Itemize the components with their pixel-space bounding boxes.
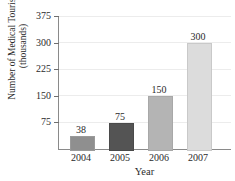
x-axis-title: Year <box>58 166 231 178</box>
chart-title: Growth in Medical Care <box>70 0 190 2</box>
bar-2007 <box>187 43 212 151</box>
x-tick-label-2006: 2006 <box>139 152 179 163</box>
chart-figure: Growth in Medical Care Number of Medical… <box>0 0 235 181</box>
bar-2004 <box>70 136 95 151</box>
bar-value-2006: 150 <box>142 84 176 95</box>
x-tick-label-2005: 2005 <box>100 152 140 163</box>
y-tick-mark <box>54 16 59 17</box>
x-tick-label-2007: 2007 <box>178 152 218 163</box>
y-tick-label: 300 <box>21 38 51 48</box>
y-tick-mark <box>54 122 59 123</box>
gridline <box>58 16 231 17</box>
y-tick-label: 375 <box>21 11 51 21</box>
bar-value-2004: 38 <box>64 124 98 135</box>
y-tick-mark <box>54 69 59 70</box>
bar-2006 <box>148 96 173 151</box>
bar-value-2007: 300 <box>181 31 215 42</box>
y-axis-line <box>58 16 59 150</box>
y-tick-label: 75 <box>21 117 51 127</box>
x-tick-label-2004: 2004 <box>61 152 101 163</box>
y-tick-label: 150 <box>21 91 51 101</box>
y-tick-mark <box>54 43 59 44</box>
bar-value-2005: 75 <box>103 111 137 122</box>
bar-2005 <box>109 123 134 151</box>
y-tick-mark <box>54 96 59 97</box>
y-axis-title-line-1: Number of Medical Tourists <box>7 0 18 100</box>
y-tick-label: 225 <box>21 64 51 74</box>
